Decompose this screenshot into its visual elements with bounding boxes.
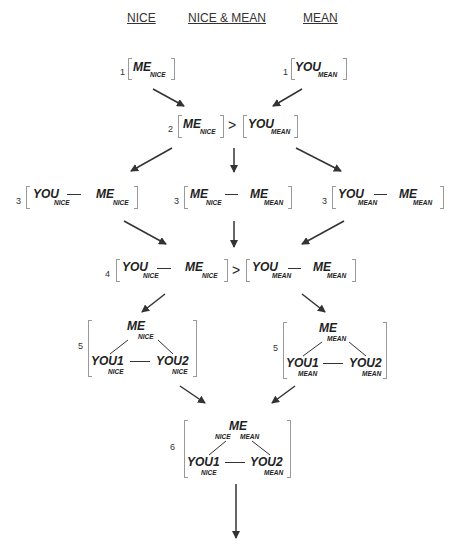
triad-lines [110, 340, 366, 455]
connector-arrows [0, 0, 456, 546]
